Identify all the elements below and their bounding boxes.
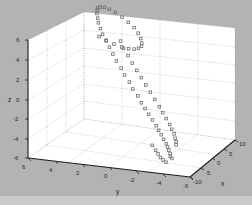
z-tick-label-6: 6 bbox=[16, 37, 19, 43]
y-tick-label-neg6: -6 bbox=[183, 183, 188, 189]
z-tick-label-2: 2 bbox=[16, 77, 19, 83]
y-axis-label: y bbox=[116, 189, 119, 196]
y-tick-label-2: 2 bbox=[76, 170, 79, 176]
matlab-3d-scatter-plot[interactable] bbox=[0, 0, 252, 205]
x-tick-label-0: 0 bbox=[217, 160, 220, 166]
figure-window: 6 4 2 0 -2 -4 -6 6 4 2 0 -2 -4 -6 -10 -5… bbox=[0, 0, 252, 205]
scatter-marker bbox=[96, 7, 99, 10]
z-tick-label-4: 4 bbox=[16, 57, 19, 63]
scatter-marker bbox=[108, 8, 111, 11]
z-tick-label-0: 0 bbox=[16, 97, 19, 103]
z-tick-label-neg2: -2 bbox=[13, 116, 18, 122]
x-tick-label-neg5: -5 bbox=[205, 170, 210, 176]
z-tick-label-neg6: -6 bbox=[13, 155, 18, 161]
scatter-marker bbox=[114, 11, 117, 14]
y-tick-label-neg4: -4 bbox=[156, 180, 161, 186]
axes-planes bbox=[28, 12, 235, 177]
z-tick-label-neg4: -4 bbox=[13, 136, 18, 142]
y-tick-label-0: 0 bbox=[104, 173, 107, 179]
x-tick-label-5: 5 bbox=[229, 151, 232, 157]
y-tick-label-neg2: -2 bbox=[129, 177, 134, 183]
y-tick-label-6: 6 bbox=[22, 164, 25, 170]
x-tick-label-neg10: -10 bbox=[193, 179, 202, 185]
back-right-wall bbox=[84, 12, 235, 140]
x-tick-label-10: 10 bbox=[239, 141, 246, 147]
x-axis-label: x bbox=[221, 181, 224, 188]
scatter-marker bbox=[103, 6, 106, 9]
z-axis-label: z bbox=[8, 97, 11, 104]
scatter-marker bbox=[99, 6, 102, 9]
y-tick-label-4: 4 bbox=[49, 167, 52, 173]
